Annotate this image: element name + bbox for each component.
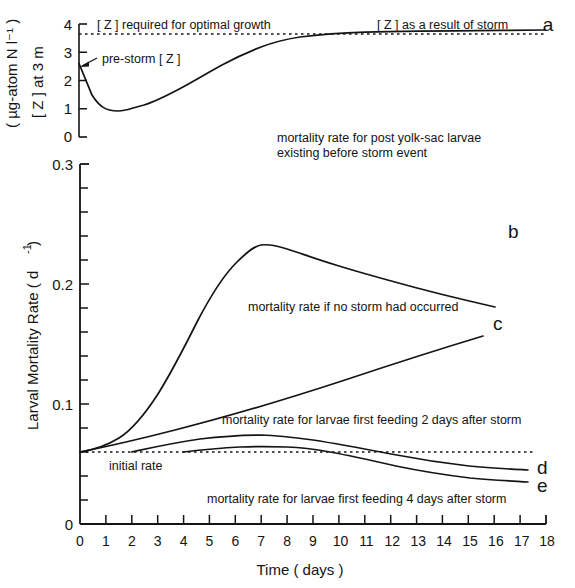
main-y-axis-close: ) xyxy=(24,241,41,246)
annotation-pre-storm: pre-storm [ Z ] xyxy=(102,52,180,66)
main-ylabel-0-1: 0.1 xyxy=(52,396,73,413)
xlabel-3: 3 xyxy=(154,533,162,549)
main-y-ticks xyxy=(80,188,89,500)
xlabel-10: 10 xyxy=(333,533,349,549)
panel-main: Larval Mortality Rate ( d -1 ) 0.3 xyxy=(21,131,555,578)
xlabel-8: 8 xyxy=(283,533,291,549)
xlabel-6: 6 xyxy=(231,533,239,549)
figure-container: ( µg-atom N l⁻¹ ) [ Z ] at 3 m 4 3 2 1 0… xyxy=(0,0,575,588)
xlabel-7: 7 xyxy=(257,533,265,549)
main-x-ticks xyxy=(106,515,520,524)
panel-a-ylabel-1: 1 xyxy=(64,100,72,117)
panel-a-y-axis-units: ( µg-atom N l⁻¹ ) xyxy=(3,19,20,128)
main-ylabel-0-2: 0.2 xyxy=(52,276,73,293)
xlabel-1: 1 xyxy=(102,533,110,549)
annotation-b-line1: mortality rate for post yolk-sac larvae xyxy=(277,131,481,145)
annotation-e: mortality rate for larvae first feeding … xyxy=(207,492,506,506)
main-x-tick-labels: 0 1 2 3 4 5 6 7 8 9 10 11 12 13 14 15 16… xyxy=(76,533,555,549)
main-y-axis-title: Larval Mortality Rate ( d xyxy=(24,271,41,430)
xlabel-17: 17 xyxy=(514,533,530,549)
xlabel-11: 11 xyxy=(359,533,374,549)
main-x-axis-title: Time ( days ) xyxy=(257,561,344,578)
panel-a: ( µg-atom N l⁻¹ ) [ Z ] at 3 m 4 3 2 1 0… xyxy=(3,14,554,145)
panel-a-ylabel-2: 2 xyxy=(64,72,72,89)
main-y-axis-title-group: Larval Mortality Rate ( d -1 ) xyxy=(21,241,41,430)
xlabel-5: 5 xyxy=(206,533,214,549)
curve-c-no-storm xyxy=(80,336,483,452)
xlabel-4: 4 xyxy=(180,533,188,549)
annotation-initial-rate: initial rate xyxy=(109,459,163,473)
xlabel-13: 13 xyxy=(410,533,426,549)
curve-label-e: e xyxy=(537,475,548,496)
panel-a-ylabel-4: 4 xyxy=(64,16,72,33)
annotation-b-line2: existing before storm event xyxy=(277,146,428,160)
panel-a-ylabel-3: 3 xyxy=(64,44,72,61)
xlabel-9: 9 xyxy=(309,533,317,549)
figure-svg: ( µg-atom N l⁻¹ ) [ Z ] at 3 m 4 3 2 1 0… xyxy=(0,0,575,588)
xlabel-16: 16 xyxy=(488,533,504,549)
annotation-optimal-growth: [ Z ] required for optimal growth xyxy=(97,18,271,32)
panel-a-y-axis-title: [ Z ] at 3 m xyxy=(29,46,46,118)
annotation-c: mortality rate if no storm had occurred xyxy=(248,300,459,314)
annotation-storm-result: [ Z ] as a result of storm xyxy=(377,18,508,32)
curve-a-storm-nutrient xyxy=(79,30,545,111)
pre-storm-arrow-head-icon xyxy=(80,62,89,68)
curve-label-b: b xyxy=(508,221,519,242)
main-ylabel-0-3: 0.3 xyxy=(52,156,73,173)
annotation-d: mortality rate for larvae first feeding … xyxy=(222,413,521,427)
panel-label-a: a xyxy=(543,14,554,35)
xlabel-18: 18 xyxy=(539,533,555,549)
main-ylabel-0: 0 xyxy=(65,516,73,533)
xlabel-0: 0 xyxy=(76,533,84,549)
xlabel-15: 15 xyxy=(462,533,478,549)
curve-label-c: c xyxy=(493,313,503,334)
xlabel-12: 12 xyxy=(385,533,401,549)
xlabel-2: 2 xyxy=(128,533,136,549)
panel-a-ylabel-0: 0 xyxy=(64,128,72,145)
xlabel-14: 14 xyxy=(436,533,452,549)
